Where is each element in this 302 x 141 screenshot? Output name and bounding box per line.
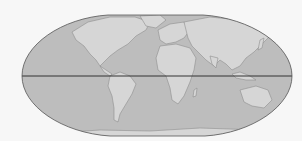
world-map-svg (0, 0, 302, 141)
world-map (0, 0, 302, 141)
